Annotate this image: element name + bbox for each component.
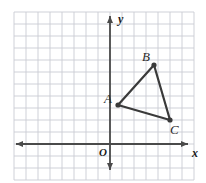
triangle-abc <box>115 62 172 122</box>
vertex-label-c: C <box>170 123 179 136</box>
x-axis-arrow-right-icon <box>181 141 188 147</box>
triangle-edge-bc <box>154 65 170 120</box>
triangle-edges <box>118 65 170 120</box>
vertex-dot-b <box>151 62 156 67</box>
x-axis-label: x <box>192 147 198 159</box>
triangle-edge-ab <box>118 65 154 105</box>
vertex-label-a: A <box>104 92 112 105</box>
y-axis-label: y <box>118 13 123 25</box>
y-axis-arrow-up-icon <box>107 16 113 23</box>
origin-label: O <box>99 147 107 158</box>
triangle-edge-ca <box>118 105 170 120</box>
vertex-label-b: B <box>142 50 150 63</box>
x-axis-arrow-left-icon <box>16 141 23 147</box>
vertex-dot-a <box>115 102 120 107</box>
y-axis-arrow-down-icon <box>107 163 113 170</box>
coordinate-plane-figure: y x O A B C <box>0 0 206 183</box>
